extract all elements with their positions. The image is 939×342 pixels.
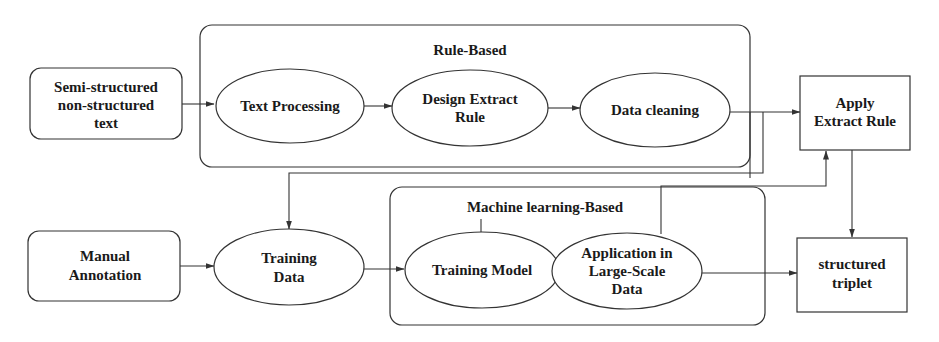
node-manual-annotation: Manual Annotation	[28, 231, 180, 301]
svg-text:Training Model: Training Model	[432, 262, 532, 278]
svg-text:Training: Training	[261, 250, 317, 266]
node-text-processing: Text Processing	[216, 69, 364, 143]
svg-text:Manual: Manual	[80, 248, 130, 264]
node-semi-structured-text: Semi-structured non-structured text	[30, 68, 182, 139]
ml-based-title: Machine learning-Based	[467, 199, 624, 215]
svg-text:Application in: Application in	[581, 245, 673, 261]
svg-text:Design Extract: Design Extract	[422, 91, 517, 107]
svg-text:Extract Rule: Extract Rule	[814, 113, 896, 129]
node-design-extract-rule: Design Extract Rule	[392, 70, 548, 146]
node-training-model: Training Model	[405, 232, 559, 308]
node-application-large-scale: Application in Large-Scale Data	[552, 233, 702, 309]
svg-text:Semi-structured: Semi-structured	[54, 79, 159, 95]
svg-text:Text Processing: Text Processing	[240, 98, 340, 114]
svg-text:Data cleaning: Data cleaning	[611, 102, 699, 118]
svg-text:Data: Data	[274, 269, 305, 285]
svg-text:non-structured: non-structured	[58, 97, 155, 113]
node-apply-extract-rule: Apply Extract Rule	[800, 76, 910, 150]
svg-text:Apply: Apply	[835, 95, 875, 111]
svg-text:Large-Scale: Large-Scale	[589, 263, 666, 279]
svg-text:Rule: Rule	[455, 109, 485, 125]
svg-text:Data: Data	[612, 281, 643, 297]
svg-text:text: text	[94, 115, 118, 131]
node-training-data: Training Data	[214, 229, 364, 305]
pipeline-diagram: Rule-Based Machine learning-Based Semi-s…	[0, 0, 939, 342]
rule-based-title: Rule-Based	[433, 42, 507, 58]
svg-text:structured: structured	[818, 256, 886, 272]
node-data-cleaning: Data cleaning	[580, 73, 730, 147]
edge-application-to-apply	[661, 151, 826, 234]
svg-text:triplet: triplet	[832, 275, 872, 291]
svg-text:Annotation: Annotation	[69, 267, 142, 283]
node-structured-triplet: structured triplet	[797, 238, 907, 312]
